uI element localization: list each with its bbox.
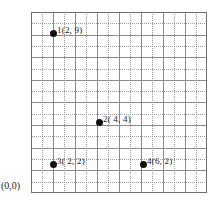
data-point-label: 1(2, 9) [57,25,82,35]
scatter-plot-figure: 1(2, 9)2( 4, 4)3( 2, 2)4(6, 2) (0,0) [0,0,219,211]
minor-gridline-horizontal [31,69,207,70]
data-point-label: 4(6, 2) [147,156,172,166]
origin-label: (0,0) [1,180,20,191]
minor-gridline-horizontal [31,136,207,137]
data-point [50,30,57,37]
minor-gridline-horizontal [31,182,207,183]
data-point [140,161,147,168]
data-point [50,161,57,168]
data-point [96,119,103,126]
minor-gridline-vertical [42,12,43,193]
minor-gridline-vertical [174,12,175,193]
minor-gridline-horizontal [31,46,207,47]
minor-gridline-vertical [86,12,87,193]
minor-gridline-horizontal [31,91,207,92]
minor-gridline-vertical [130,12,131,193]
minor-gridline-vertical [196,12,197,193]
minor-gridline-vertical [108,12,109,193]
data-point-label: 2( 4, 4) [103,114,131,124]
data-point-label: 3( 2, 2) [57,156,85,166]
